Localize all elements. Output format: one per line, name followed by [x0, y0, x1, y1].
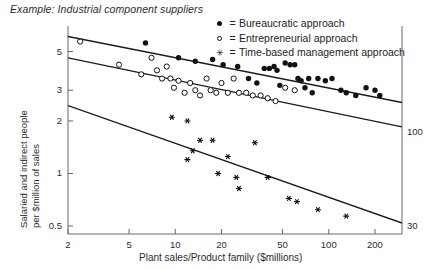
x-tick-label: 100	[314, 239, 344, 250]
data-point	[236, 90, 241, 95]
data-point	[344, 90, 349, 95]
data-point	[372, 88, 377, 93]
data-point	[235, 64, 240, 69]
data-point	[176, 78, 181, 83]
data-point	[302, 85, 307, 90]
data-point	[267, 66, 272, 71]
data-point	[294, 200, 299, 204]
data-point	[225, 154, 230, 158]
y-tick-label: 3	[36, 84, 62, 95]
data-point	[193, 58, 198, 63]
right-axis-label: 30	[407, 220, 437, 231]
data-point	[185, 119, 190, 123]
trendline-time-based-fit	[68, 106, 402, 223]
data-point	[164, 64, 169, 69]
data-point	[254, 80, 259, 85]
data-point	[188, 80, 193, 85]
data-point	[149, 55, 154, 60]
data-point	[250, 93, 255, 98]
data-point	[298, 78, 303, 83]
data-point	[197, 138, 202, 142]
data-point	[292, 62, 297, 67]
x-tick-label: 20	[206, 239, 236, 250]
data-point	[273, 98, 278, 103]
data-point	[154, 68, 159, 73]
series-open-circle	[78, 39, 298, 104]
data-point	[78, 39, 83, 44]
data-point	[176, 55, 181, 60]
data-point	[287, 62, 292, 67]
data-point	[315, 208, 320, 212]
data-point	[306, 76, 311, 81]
data-point	[204, 76, 209, 81]
data-point	[193, 88, 198, 93]
data-point	[344, 214, 349, 218]
data-point	[231, 76, 236, 81]
data-point	[169, 115, 174, 119]
data-point	[274, 68, 279, 73]
data-point	[286, 196, 291, 200]
data-point	[208, 88, 213, 93]
data-point	[315, 76, 320, 81]
data-point	[143, 40, 148, 45]
data-point	[338, 88, 343, 93]
data-point	[310, 90, 315, 95]
x-tick-label: 50	[268, 239, 298, 250]
data-point	[283, 85, 288, 90]
data-point	[210, 138, 215, 142]
x-tick-label: 2	[53, 239, 83, 250]
data-point	[265, 96, 270, 101]
data-point	[277, 83, 282, 88]
x-tick-label: 5	[114, 239, 144, 250]
data-point	[225, 90, 230, 95]
data-point	[197, 93, 202, 98]
series-filled-circle	[143, 40, 383, 98]
data-point	[244, 90, 249, 95]
data-point	[234, 175, 239, 179]
data-point	[220, 62, 225, 67]
data-point	[258, 93, 263, 98]
data-point	[168, 76, 173, 81]
data-point	[292, 88, 297, 93]
data-point	[246, 76, 251, 81]
y-tick-label: 0.5	[36, 220, 62, 231]
chart-page: Example: Industrial component suppliers …	[0, 0, 439, 269]
data-point	[210, 57, 215, 62]
y-tick-label: 5	[36, 46, 62, 57]
y-tick-label: 2	[36, 115, 62, 126]
data-point	[262, 66, 267, 71]
data-point	[353, 93, 358, 98]
data-point	[323, 78, 328, 83]
data-point	[236, 186, 241, 190]
data-point	[182, 90, 187, 95]
data-point	[214, 90, 219, 95]
data-point	[252, 141, 257, 145]
data-point	[139, 72, 144, 77]
x-tick-label: 10	[160, 239, 190, 250]
data-point	[159, 76, 164, 81]
y-tick-label: 1	[36, 167, 62, 178]
data-point	[282, 60, 287, 65]
x-axis-label: Plant sales/Product family ($millions)	[139, 252, 302, 263]
data-point	[219, 80, 224, 85]
series-asterisk	[169, 115, 349, 218]
y-axis-label-line1: Salaried and indirect people	[18, 110, 29, 228]
y-axis-label-line2: per $million of sales	[30, 144, 41, 228]
data-point	[171, 85, 176, 90]
scatter-plot	[0, 0, 439, 269]
data-point	[363, 85, 368, 90]
x-tick-label: 200	[360, 239, 390, 250]
right-axis-label: 100	[407, 126, 437, 137]
data-point	[116, 62, 121, 67]
data-point	[185, 158, 190, 162]
data-point	[215, 171, 220, 175]
data-point	[329, 76, 334, 81]
data-point	[377, 93, 382, 98]
